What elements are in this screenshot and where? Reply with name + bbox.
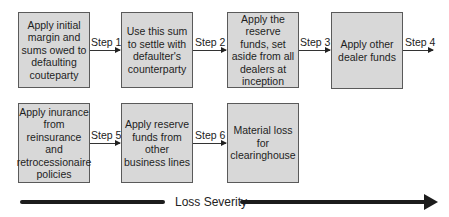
box-apply-insurance: Apply inurance from reinsurance and retr… bbox=[18, 103, 90, 183]
loss-severity-label: Loss Severity bbox=[175, 195, 247, 209]
box-material-loss: Material loss for clearinghouse bbox=[227, 103, 299, 183]
box-text: Apply inurance from reinsurance and retr… bbox=[17, 106, 92, 181]
box-text: Apply other dealer funds bbox=[334, 38, 400, 63]
loss-severity-line-left bbox=[20, 200, 165, 204]
box-text: Apply reserve funds from other business … bbox=[124, 118, 190, 168]
step-6-label: Step 6 bbox=[195, 129, 225, 141]
connector-step-6 bbox=[193, 143, 226, 144]
box-apply-other-dealer-funds: Apply other dealer funds bbox=[331, 12, 403, 89]
step-5-label: Step 5 bbox=[91, 129, 121, 141]
loss-severity-line-right bbox=[240, 200, 426, 204]
arrow-head-icon bbox=[424, 194, 438, 210]
connector-step-5 bbox=[90, 143, 120, 144]
connector-step-4 bbox=[403, 50, 433, 51]
connector-step-2 bbox=[193, 50, 226, 51]
connector-step-3 bbox=[299, 50, 330, 51]
step-3-label: Step 3 bbox=[300, 36, 330, 48]
step-1-label: Step 1 bbox=[91, 36, 121, 48]
box-text: Material loss for clearinghouse bbox=[230, 124, 296, 162]
box-text: Apply initial margin and sums owed to de… bbox=[21, 19, 87, 82]
step-2-label: Step 2 bbox=[195, 36, 225, 48]
box-text: Apply the reserve funds, set aside from … bbox=[230, 13, 296, 88]
box-settle-counterparty: Use this sum to settle with defaulter's … bbox=[121, 12, 193, 88]
connector-step-1 bbox=[90, 50, 120, 51]
step-4-label: Step 4 bbox=[405, 36, 435, 48]
box-apply-reserve-funds: Apply the reserve funds, set aside from … bbox=[227, 12, 299, 88]
box-apply-reserve-other-lines: Apply reserve funds from other business … bbox=[121, 103, 193, 183]
box-text: Use this sum to settle with defaulter's … bbox=[124, 25, 190, 75]
box-apply-initial-margin: Apply initial margin and sums owed to de… bbox=[18, 12, 90, 88]
